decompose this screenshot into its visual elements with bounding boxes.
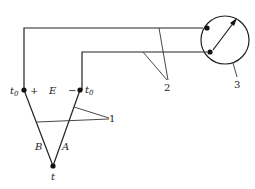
label-minus: −: [68, 85, 76, 96]
label-wire-a: A: [61, 141, 69, 152]
thermocouple-wire-b: [24, 90, 53, 166]
label-t0-left: t0: [10, 85, 19, 98]
label-plus: +: [30, 85, 38, 96]
label-wire-b: B: [34, 141, 42, 152]
callout-1-leader-a: [74, 107, 109, 118]
callout-1-label: 1: [109, 113, 115, 124]
meter-needle: [213, 22, 234, 50]
meter-terminal-bottom: [207, 49, 212, 54]
callout-1-leader-b: [37, 119, 109, 122]
callout-3-label: 3: [234, 79, 240, 90]
label-hot-junction-t: t: [51, 171, 56, 182]
label-emf-e: E: [48, 85, 57, 96]
meter-needle-arrowhead: [230, 18, 237, 26]
callout-3-leader: [233, 63, 237, 77]
callout-2-leader-b: [143, 52, 167, 80]
cold-junction-left-dot: [21, 87, 26, 92]
cold-junction-right-dot: [77, 87, 82, 92]
thermocouple-wire-a: [53, 90, 80, 166]
thermocouple-circuit-diagram: t0 + E − t0 B A t 1 2 3: [0, 0, 255, 189]
callout-2-label: 2: [164, 82, 170, 93]
meter-terminal-top: [204, 25, 209, 30]
outer-lead-wire: [24, 28, 203, 90]
hot-junction-dot: [50, 163, 55, 168]
label-t0-right: t0: [85, 84, 94, 97]
inner-lead-wire: [82, 52, 207, 90]
meter-circle: [201, 16, 249, 64]
